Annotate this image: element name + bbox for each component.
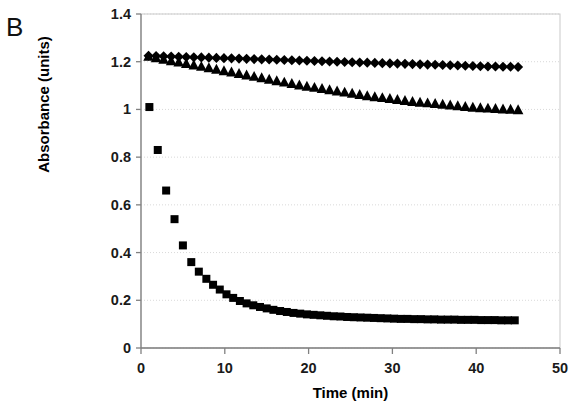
data-point <box>287 78 298 88</box>
y-tick-label: 1.4 <box>111 6 131 22</box>
data-point <box>171 215 179 223</box>
figure-panel-b: B Absorbance (units) Time (min) 00.20.40… <box>0 0 581 411</box>
x-tick-label: 40 <box>468 360 484 376</box>
x-tick-label: 50 <box>552 360 568 376</box>
data-point <box>513 62 523 72</box>
data-point <box>219 65 230 75</box>
data-point <box>179 241 187 249</box>
data-point <box>162 187 170 195</box>
data-point <box>211 64 222 74</box>
y-tick-label: 1 <box>123 101 131 117</box>
x-tick-label: 0 <box>137 360 145 376</box>
data-point <box>154 146 162 154</box>
y-tick-label: 0.8 <box>111 149 131 165</box>
data-point <box>279 77 290 87</box>
data-point <box>511 316 519 324</box>
data-series-layer <box>143 51 523 325</box>
series-squares <box>145 103 518 324</box>
data-point <box>187 258 195 266</box>
data-point <box>204 62 215 72</box>
data-point <box>271 75 282 85</box>
data-point <box>513 104 524 114</box>
data-point <box>226 67 237 77</box>
data-point <box>264 74 275 84</box>
data-point <box>241 69 252 79</box>
data-point <box>256 72 267 82</box>
data-point <box>145 103 153 111</box>
data-point <box>234 68 245 78</box>
y-tick-label: 0.6 <box>111 197 131 213</box>
data-point <box>181 58 192 68</box>
y-tick-label: 0.4 <box>111 245 131 261</box>
y-tick-label: 0.2 <box>111 292 131 308</box>
x-tick-label: 10 <box>217 360 233 376</box>
x-tick-label: 30 <box>384 360 400 376</box>
data-point <box>249 71 260 81</box>
scatter-plot: 00.20.40.60.811.21.401020304050 <box>0 0 581 411</box>
x-tick-label: 20 <box>301 360 317 376</box>
data-point <box>196 61 207 71</box>
y-tick-label: 1.2 <box>111 54 131 70</box>
y-tick-label: 0 <box>123 340 131 356</box>
data-point <box>188 59 199 69</box>
data-point <box>195 268 203 276</box>
